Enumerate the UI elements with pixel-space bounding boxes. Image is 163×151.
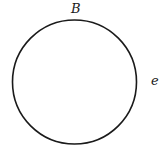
label-e: e	[151, 74, 159, 87]
label-b: B	[71, 2, 81, 15]
circle-diagram	[0, 0, 163, 151]
circle-shape	[13, 20, 137, 144]
